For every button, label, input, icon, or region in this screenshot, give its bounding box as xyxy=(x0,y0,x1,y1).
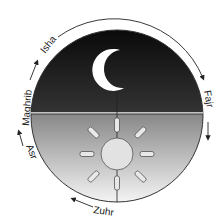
label-isha: Isha xyxy=(38,33,59,55)
prayer-cycle-diagram: Isha Fajr Zuhr Asr Maghrib xyxy=(0,0,224,223)
sun-icon xyxy=(80,118,154,190)
label-zuhr: Zuhr xyxy=(93,204,116,218)
label-fajr: Fajr xyxy=(202,89,216,109)
